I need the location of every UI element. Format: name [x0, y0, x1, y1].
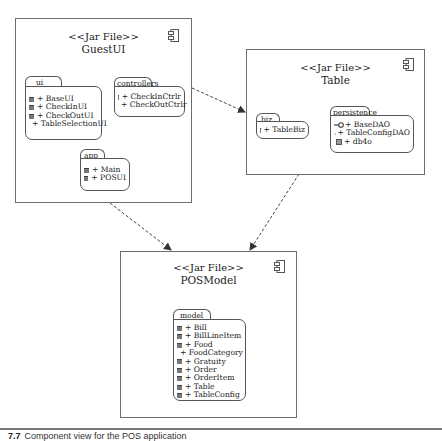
package-app[interactable]: app + Main + POSUI — [80, 149, 130, 192]
package-icon — [336, 139, 342, 145]
class-item[interactable]: + CheckOutCtrlr — [118, 101, 181, 109]
interface-icon — [334, 131, 336, 137]
package-ui[interactable]: ui + BaseUI + CheckInUI + CheckOutUI + T… — [25, 76, 102, 141]
class-icon — [177, 326, 182, 331]
class-icon — [84, 176, 88, 181]
package-controllers[interactable]: controllers + CheckInCtrlr + CheckOutCtr… — [114, 77, 185, 119]
class-icon — [177, 343, 182, 348]
component-posmodel[interactable]: <<Jar File>> POSModel model + Bill + Bil… — [120, 251, 297, 418]
package-biz[interactable]: biz + TableBiz — [256, 113, 309, 140]
class-icon — [177, 334, 182, 339]
component-stereotype: <<Jar File>> — [16, 31, 191, 43]
caption-divider — [0, 428, 442, 430]
class-icon — [177, 359, 182, 364]
component-name: GuestUI — [16, 43, 191, 55]
component-stereotype: <<Jar File>> — [247, 62, 424, 74]
component-stereotype: <<Jar File>> — [121, 262, 296, 274]
package-model[interactable]: model + Bill + BillLineItem + Food + Foo… — [173, 309, 246, 402]
component-icon — [168, 29, 179, 42]
class-icon — [177, 376, 182, 381]
class-icon — [177, 385, 182, 390]
component-icon — [274, 260, 285, 273]
class-icon — [29, 97, 34, 102]
class-item[interactable]: + TableBiz — [260, 126, 305, 134]
component-guestui[interactable]: <<Jar File>> GuestUI ui + BaseUI + Check… — [15, 18, 192, 203]
figure-caption-text: Component view for the POS application — [25, 431, 187, 441]
component-name: POSModel — [121, 274, 296, 286]
class-icon — [177, 393, 182, 398]
component-table[interactable]: <<Jar File>> Table biz + TableBiz persis… — [246, 49, 425, 175]
class-item[interactable]: + POSUI — [84, 174, 126, 182]
dependency-table-to-posmodel — [250, 174, 299, 250]
figure-caption: 7.7Component view for the POS applicatio… — [8, 431, 187, 441]
class-icon — [118, 95, 119, 100]
dependency-guestui-to-table — [192, 88, 245, 112]
package-persistence[interactable]: persistence + BaseDAO + TableConfigDAO +… — [330, 106, 414, 154]
figure-number: 7.7 — [8, 431, 21, 441]
class-icon — [84, 168, 89, 173]
component-icon — [403, 58, 414, 71]
class-icon — [29, 105, 34, 110]
class-icon — [177, 368, 182, 373]
component-name: Table — [247, 74, 424, 86]
package-item[interactable]: + db4o — [334, 138, 410, 146]
interface-icon — [334, 122, 344, 128]
class-item[interactable]: + TableConfig — [177, 391, 242, 399]
dependency-guestui-to-posmodel — [110, 203, 171, 250]
class-icon — [29, 114, 34, 119]
class-item[interactable]: + TableSelectionUI — [29, 120, 98, 128]
